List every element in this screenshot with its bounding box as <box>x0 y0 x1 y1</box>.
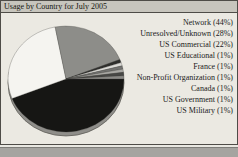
legend-item: Canada (1%) <box>137 83 233 94</box>
legend-item: US Military (1%) <box>137 105 233 116</box>
legend-item: Non-Profit Organization (1%) <box>137 72 233 83</box>
legend-item: Network (44%) <box>137 17 233 28</box>
chart-title: Usage by Country for July 2005 <box>4 2 107 11</box>
legend-item: US Government (1%) <box>137 94 233 105</box>
legend-item: France (1%) <box>137 61 233 72</box>
legend-item: US Commercial (22%) <box>137 39 233 50</box>
bottom-strip <box>0 147 238 157</box>
screen: Usage by Country for July 2005 Network (… <box>0 0 238 157</box>
legend-item: US Educational (1%) <box>137 50 233 61</box>
legend-item: Unresolved/Unknown (28%) <box>137 28 233 39</box>
chart-panel: Usage by Country for July 2005 Network (… <box>0 0 238 145</box>
chart-title-bar: Usage by Country for July 2005 <box>1 1 237 13</box>
chart-area: Network (44%)Unresolved/Unknown (28%)US … <box>1 13 237 144</box>
legend: Network (44%)Unresolved/Unknown (28%)US … <box>137 17 233 116</box>
